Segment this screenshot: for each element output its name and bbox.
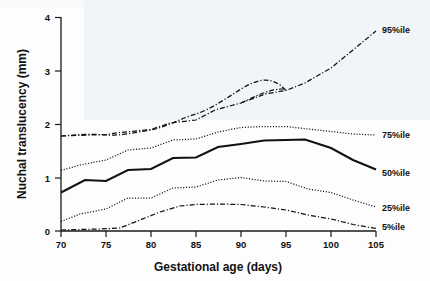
x-tick-label-95: 95 (281, 239, 292, 250)
x-tick-label-85: 85 (191, 239, 202, 250)
y-tick-label-3: 3 (45, 66, 50, 77)
series-label-75th-percentile: 75%ile (382, 130, 410, 140)
curve-95th-percentile (61, 80, 286, 136)
x-tick-label-90: 90 (236, 239, 247, 250)
series-label-50th-percentile: 50%ile (382, 168, 410, 178)
series-label-25th-percentile: 25%ile (382, 203, 410, 213)
y-axis-title: Nuchal translucency (mm) (15, 49, 29, 199)
y-tick-label-4: 4 (45, 12, 51, 23)
x-tick-label-105: 105 (368, 239, 385, 250)
x-tick-label-70: 70 (56, 239, 67, 250)
series-label-95th-percentile: 95%ile (382, 25, 410, 35)
curve-5th-percentile (61, 204, 376, 230)
x-tick-label-100: 100 (323, 239, 339, 250)
x-tick-group: 70 75 80 85 90 95 100 105 (56, 231, 385, 250)
axis-group (61, 17, 376, 231)
x-tick-label-75: 75 (101, 239, 112, 250)
curve-75th-percentile (61, 127, 376, 171)
x-tick-label-80: 80 (146, 239, 157, 250)
curve-50th-percentile (61, 140, 376, 193)
y-tick-label-1: 1 (45, 173, 51, 184)
y-tick-label-2: 2 (45, 119, 50, 130)
y-tick-label-0: 0 (45, 226, 50, 237)
x-axis-title: Gestational age (days) (154, 260, 282, 274)
y-tick-group: 4 3 2 1 0 (45, 12, 61, 237)
nuchal-translucency-line-chart: 4 3 2 1 0 70 75 80 85 90 95 100 105 Nuch (0, 0, 430, 281)
curve-95th-percentile-main (61, 31, 376, 136)
series-label-5th-percentile: 5%ile (382, 222, 405, 232)
chart-figure: 4 3 2 1 0 70 75 80 85 90 95 100 105 Nuch (0, 0, 430, 281)
curve-25th-percentile (61, 178, 376, 222)
